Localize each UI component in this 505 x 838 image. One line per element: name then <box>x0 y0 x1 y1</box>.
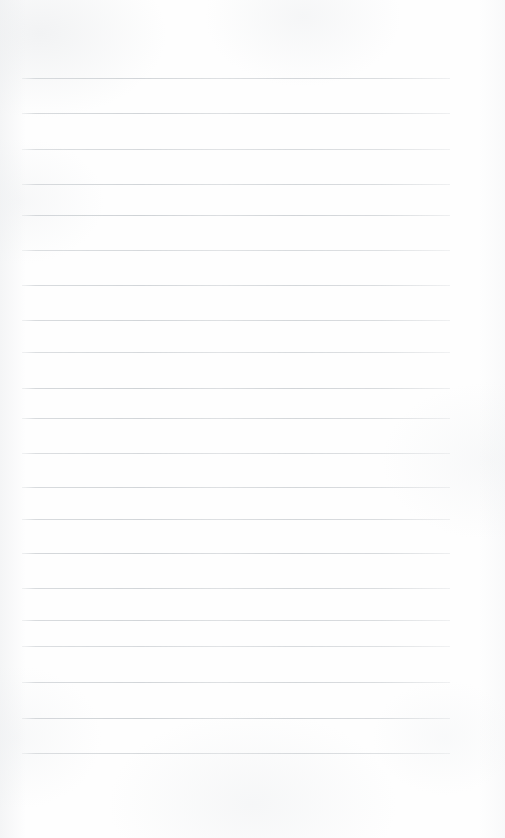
write-line-slot[interactable] <box>22 113 450 149</box>
write-line-slot[interactable] <box>22 487 450 519</box>
write-line-slot[interactable] <box>22 453 450 487</box>
write-line-slot[interactable] <box>22 718 450 753</box>
write-line-slot[interactable] <box>22 250 450 285</box>
write-line-slot[interactable] <box>22 215 450 250</box>
write-line-slot[interactable] <box>22 682 450 718</box>
write-line-slot[interactable] <box>22 388 450 418</box>
write-line-slot[interactable] <box>22 43 450 79</box>
write-line-slot[interactable] <box>22 184 450 215</box>
ruled-line-area <box>0 0 505 838</box>
write-line-slot[interactable] <box>22 620 450 646</box>
write-line-slot[interactable] <box>22 149 450 184</box>
write-line-slot[interactable] <box>22 418 450 453</box>
write-line-slot[interactable] <box>22 646 450 682</box>
write-line-slot[interactable] <box>22 553 450 588</box>
write-line-slot[interactable] <box>22 285 450 320</box>
ruled-line <box>22 753 450 754</box>
write-line-slot[interactable] <box>22 588 450 620</box>
notebook-page <box>0 0 505 838</box>
write-line-slot[interactable] <box>22 352 450 388</box>
write-line-slot[interactable] <box>22 519 450 553</box>
write-line-slot[interactable] <box>22 320 450 352</box>
write-line-slot[interactable] <box>22 78 450 113</box>
